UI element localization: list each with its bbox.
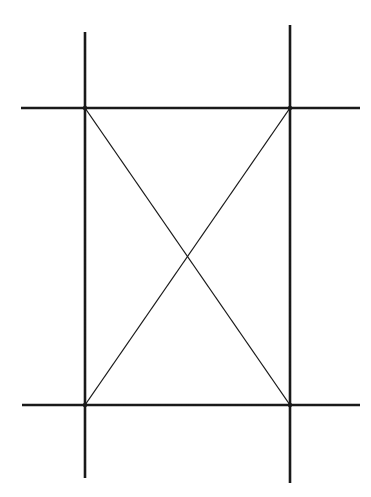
bottom-right-vertex: [288, 403, 292, 407]
top-right-vertex: [288, 106, 292, 110]
bottom-left-vertex: [83, 403, 87, 407]
background: [0, 0, 371, 497]
top-left-vertex: [83, 106, 87, 110]
diagram-canvas: [0, 0, 371, 497]
